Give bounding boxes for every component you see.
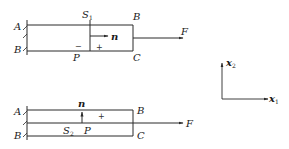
top-wall-hatch [23, 26, 27, 51]
label-b-right-top: B [132, 11, 140, 22]
coordinate-axes: x 2 x 1 [222, 57, 279, 105]
label-x2-sub: 2 [232, 62, 236, 69]
plus-sign-top: + [96, 43, 103, 52]
label-a-bottom: A [13, 106, 21, 117]
label-p-top: P [72, 52, 80, 63]
label-c-top: C [133, 52, 141, 63]
bottom-wall-hatch [23, 111, 27, 137]
label-s2: S [63, 125, 70, 136]
label-s2-sub: 2 [70, 130, 74, 137]
label-s1: S [82, 9, 89, 20]
plus-sign-bottom: + [98, 112, 105, 121]
label-b-right-bottom: B [136, 105, 144, 116]
label-n-top: n [111, 31, 118, 42]
label-x1-sub: 1 [275, 98, 279, 105]
label-s1-sub: 1 [89, 14, 93, 21]
top-figure: A B S 1 B n F − + P C [13, 9, 189, 63]
label-a-top: A [13, 21, 21, 32]
label-b-left-top: B [13, 44, 21, 55]
label-c-bottom: C [137, 130, 145, 141]
bottom-figure: A B n + B F S 2 P C [13, 98, 194, 141]
label-p-bottom: P [83, 125, 91, 136]
label-f-bottom: F [185, 118, 194, 129]
label-f-top: F [180, 26, 189, 37]
minus-sign-top: − [75, 42, 82, 51]
label-n-bottom: n [78, 98, 85, 109]
label-b-left-bottom: B [13, 130, 21, 141]
mechanics-diagram: A B S 1 B n F − + P C A B n + B F S 2 P … [0, 0, 289, 149]
